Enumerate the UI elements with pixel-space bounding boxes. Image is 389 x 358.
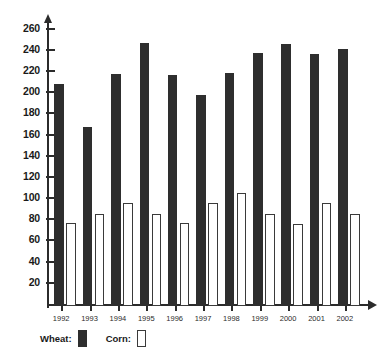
chart-legend: Wheat: Corn:: [40, 330, 146, 347]
x-axis-tick-label: 1995: [132, 314, 160, 323]
y-axis-tick-label: 80: [6, 212, 40, 224]
x-axis-tick-label: 1993: [75, 314, 103, 323]
bar-wheat: [83, 127, 93, 306]
y-axis-tick-label: 160: [6, 128, 40, 140]
x-axis-tick-label: 1994: [104, 314, 132, 323]
bar-wheat: [140, 43, 150, 306]
bar-corn: [265, 214, 275, 306]
bar-wheat: [54, 84, 64, 306]
bar-wheat: [338, 49, 348, 306]
bar-corn: [180, 223, 190, 306]
bar-wheat: [196, 95, 206, 306]
y-axis-tick: [46, 70, 55, 72]
bar-corn: [350, 214, 360, 306]
y-axis-tick-label: 120: [6, 170, 40, 182]
bar-wheat: [281, 44, 291, 306]
bar-wheat: [225, 73, 235, 306]
y-axis-tick-label: 260: [6, 22, 40, 34]
y-axis-line: [47, 22, 49, 308]
x-axis-tick-label: 2000: [274, 314, 302, 323]
y-axis-tick: [46, 28, 55, 30]
y-axis-tick-label: 40: [6, 255, 40, 267]
x-axis-tick-label: 1997: [189, 314, 217, 323]
bar-wheat: [253, 53, 263, 306]
plot-area: 1992199319941995199619971998199920002001…: [47, 18, 377, 308]
y-axis-arrow-icon: [44, 14, 52, 23]
bar-corn: [208, 203, 218, 306]
bar-wheat: [111, 74, 121, 306]
y-axis-tick-label: 220: [6, 64, 40, 76]
bar-wheat: [310, 54, 320, 306]
y-axis-tick-label: 20: [6, 276, 40, 288]
legend-label-wheat: Wheat:: [40, 333, 72, 344]
x-axis-tick-label: 1998: [217, 314, 245, 323]
bar-wheat: [168, 75, 178, 306]
y-axis-tick-label: 200: [6, 85, 40, 97]
y-axis-tick: [46, 49, 55, 51]
legend-swatch-wheat: [78, 330, 87, 347]
legend-swatch-corn: [137, 330, 146, 347]
bar-corn: [237, 193, 247, 306]
x-axis-tick-label: 1992: [47, 314, 75, 323]
legend-label-corn: Corn:: [106, 333, 131, 344]
bar-corn: [322, 203, 332, 306]
bar-chart: 1992199319941995199619971998199920002001…: [0, 0, 389, 358]
x-axis-tick-label: 2001: [302, 314, 330, 323]
bar-corn: [95, 214, 105, 306]
x-axis-tick-label: 1999: [246, 314, 274, 323]
y-axis-tick-label: 140: [6, 149, 40, 161]
y-axis-tick-label: 100: [6, 191, 40, 203]
bar-corn: [152, 214, 162, 306]
x-axis-tick-label: 1996: [160, 314, 188, 323]
y-axis-tick-label: 240: [6, 43, 40, 55]
y-axis-tick-label: 180: [6, 106, 40, 118]
bar-corn: [123, 203, 133, 306]
y-axis-tick-label: 60: [6, 233, 40, 245]
x-axis-arrow-icon: [368, 300, 377, 310]
x-axis-tick-label: 2002: [331, 314, 359, 323]
bar-corn: [293, 224, 303, 306]
bar-corn: [66, 223, 76, 306]
